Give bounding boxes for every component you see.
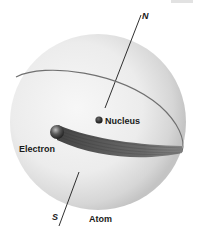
- nucleus-label: Nucleus: [105, 117, 140, 126]
- north-pole-label: N: [142, 12, 149, 21]
- south-pole-label: S: [52, 213, 58, 222]
- electron-label: Electron: [19, 145, 55, 154]
- electron-ball: [50, 125, 64, 139]
- atom-diagram: N Nucleus Electron S Atom: [0, 0, 197, 232]
- atom-illustration: [0, 0, 197, 232]
- nucleus-dot: [95, 116, 102, 123]
- atom-caption: Atom: [89, 215, 112, 224]
